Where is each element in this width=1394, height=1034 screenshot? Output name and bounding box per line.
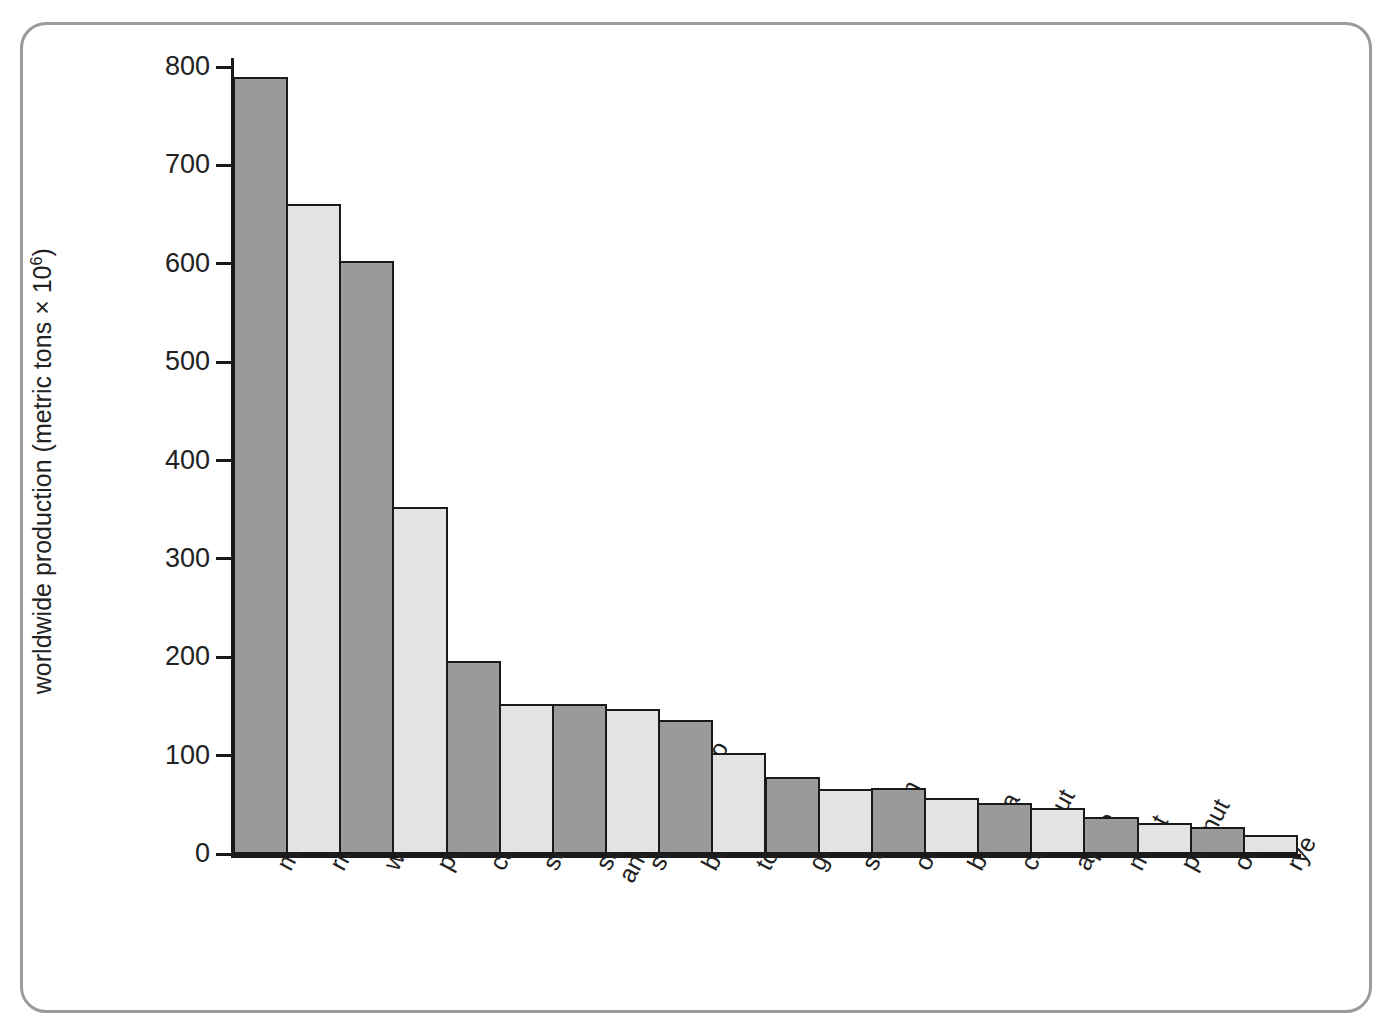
bar[interactable] <box>977 803 1032 854</box>
bar[interactable] <box>1190 827 1245 854</box>
y-axis-tick-label: 200 <box>148 643 210 670</box>
bar[interactable] <box>552 704 607 854</box>
y-axis-tick-label: 700 <box>148 151 210 178</box>
y-axis-title-exponent: 6 <box>27 256 45 265</box>
bar[interactable] <box>658 720 713 854</box>
bar[interactable] <box>233 77 288 854</box>
bar[interactable] <box>499 704 554 854</box>
y-axis-tick-label: 800 <box>148 53 210 80</box>
bar[interactable] <box>286 204 341 854</box>
y-axis-tick-label: 500 <box>148 348 210 375</box>
y-axis-tick-label: 300 <box>148 545 210 572</box>
bar[interactable] <box>765 777 820 854</box>
bar[interactable] <box>446 661 501 854</box>
y-axis-tick <box>216 164 232 167</box>
y-axis-tick-label: 100 <box>148 742 210 769</box>
x-axis-tick-labels: maizericewheatpotatocassavasoya beansuga… <box>233 862 1296 1022</box>
bar[interactable] <box>1083 817 1138 854</box>
y-axis-tick <box>216 656 232 659</box>
bar[interactable] <box>1030 808 1085 854</box>
y-axis-tick <box>216 459 232 462</box>
y-axis-tick <box>216 262 232 265</box>
bar[interactable] <box>392 507 447 854</box>
y-axis-title: worldwide production (metric tons × 106) <box>27 191 57 751</box>
y-axis-tick-label: 0 <box>148 840 210 867</box>
bar[interactable] <box>871 788 926 854</box>
bar-chart: 0100200300400500600700800 worldwide prod… <box>0 0 1394 1034</box>
y-axis-tick-label: 400 <box>148 447 210 474</box>
y-axis-tick <box>216 557 232 560</box>
y-axis-tick-label: 600 <box>148 250 210 277</box>
bar[interactable] <box>605 709 660 854</box>
y-axis-tick <box>216 754 232 757</box>
y-axis-tick <box>216 66 232 69</box>
bar[interactable] <box>339 261 394 854</box>
bar[interactable] <box>818 789 873 854</box>
bar[interactable] <box>1243 835 1298 854</box>
bar[interactable] <box>924 798 979 854</box>
bar-series <box>233 58 1296 854</box>
y-axis-tick <box>216 361 232 364</box>
bar[interactable] <box>711 753 766 854</box>
y-axis-tick <box>216 853 232 856</box>
bar[interactable] <box>1137 823 1192 854</box>
